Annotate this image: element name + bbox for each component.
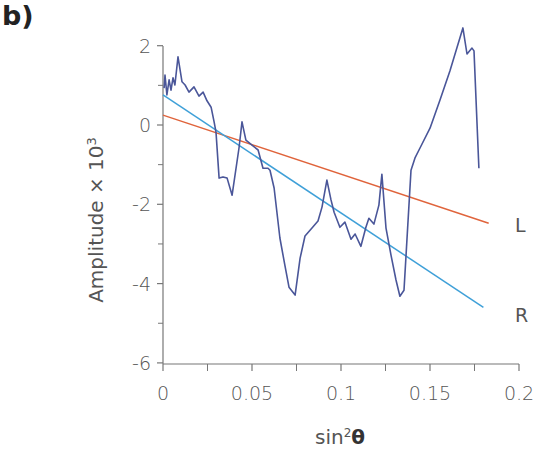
x-axis-title-base: sin <box>315 425 344 449</box>
y-axis-title-base: Amplitude × 10 <box>84 145 108 302</box>
x-axis-title-sup: 2 <box>344 426 352 440</box>
x-tick-label: 0 <box>157 382 169 404</box>
x-axis-title-symbol: θ <box>351 425 365 449</box>
y-tick-label: -4 <box>132 273 151 295</box>
chart: 20-2-4-6 00.050.10.150.2 L R Amplitude ×… <box>0 0 551 462</box>
y-tick-label: -2 <box>132 193 151 215</box>
x-tick-label: 0.05 <box>231 382 273 404</box>
plot-area <box>163 28 489 308</box>
x-tick-label: 0.2 <box>504 382 534 404</box>
series-label-R: R <box>515 304 528 326</box>
y-axis: 20-2-4-6 <box>132 35 163 374</box>
y-tick-label: -6 <box>132 352 151 374</box>
fit-line-L <box>163 115 489 223</box>
y-tick-label: 2 <box>139 35 151 57</box>
x-axis-title: sin2θ <box>315 425 365 449</box>
y-tick-label: 0 <box>139 114 151 136</box>
series-label-L: L <box>515 214 526 236</box>
y-axis-title-sup: 3 <box>84 137 99 145</box>
x-tick-label: 0.15 <box>409 382 451 404</box>
x-axis: 00.050.10.150.2 <box>157 364 534 404</box>
y-axis-title: Amplitude × 103 <box>84 137 109 303</box>
x-tick-label: 0.1 <box>326 382 356 404</box>
data-line <box>164 28 479 296</box>
